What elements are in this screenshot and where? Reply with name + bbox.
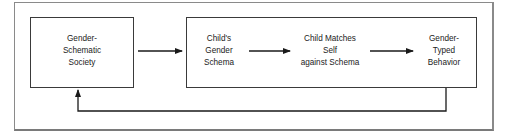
node-schema: Child's Gender Schema: [188, 33, 250, 69]
node-society: Gender- Schematic Society: [30, 33, 134, 69]
feedback-arrow: [78, 88, 446, 111]
node-matches: Child Matches Self against Schema: [288, 33, 372, 69]
node-behavior: Gender- Typed Behavior: [415, 33, 473, 69]
